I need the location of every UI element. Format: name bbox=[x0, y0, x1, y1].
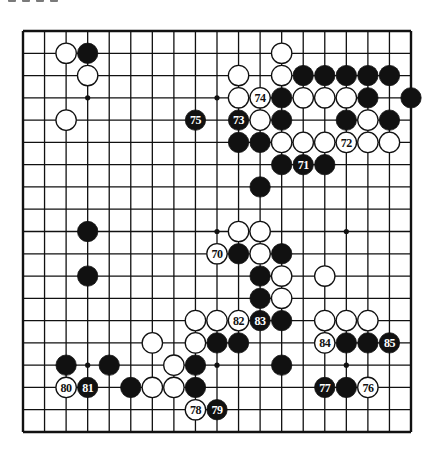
white-stone-move-80[interactable]: 80 bbox=[56, 377, 76, 397]
white-stone[interactable] bbox=[164, 377, 184, 397]
white-stone[interactable] bbox=[271, 65, 291, 85]
white-stone[interactable] bbox=[293, 132, 313, 152]
white-stone[interactable] bbox=[315, 132, 335, 152]
move-number: 85 bbox=[384, 336, 396, 350]
white-stone[interactable] bbox=[358, 110, 378, 130]
white-stone[interactable] bbox=[336, 88, 356, 108]
white-stone[interactable] bbox=[228, 65, 248, 85]
black-stone[interactable] bbox=[185, 355, 205, 375]
black-stone[interactable] bbox=[77, 43, 97, 63]
white-stone[interactable] bbox=[271, 266, 291, 286]
white-stone[interactable] bbox=[358, 132, 378, 152]
black-stone[interactable] bbox=[336, 333, 356, 353]
black-stone-move-85[interactable]: 85 bbox=[379, 333, 399, 353]
black-stone-move-81[interactable]: 81 bbox=[77, 377, 97, 397]
move-number: 71 bbox=[298, 158, 310, 172]
white-stone[interactable] bbox=[185, 310, 205, 330]
black-stone-move-75[interactable]: 75 bbox=[185, 110, 205, 130]
black-stone[interactable] bbox=[401, 88, 421, 108]
black-stone[interactable] bbox=[358, 65, 378, 85]
move-number: 83 bbox=[255, 314, 267, 328]
white-stone[interactable] bbox=[142, 333, 162, 353]
black-stone[interactable] bbox=[336, 377, 356, 397]
black-stone[interactable] bbox=[379, 65, 399, 85]
black-stone[interactable] bbox=[228, 132, 248, 152]
black-stone[interactable] bbox=[207, 333, 227, 353]
black-stone[interactable] bbox=[250, 266, 270, 286]
move-number: 76 bbox=[362, 381, 374, 395]
star-point bbox=[214, 363, 219, 368]
white-stone[interactable] bbox=[250, 244, 270, 264]
white-stone-move-72[interactable]: 72 bbox=[336, 132, 356, 152]
white-stone-move-82[interactable]: 82 bbox=[228, 310, 248, 330]
black-stone[interactable] bbox=[293, 65, 313, 85]
black-stone[interactable] bbox=[121, 377, 141, 397]
black-stone[interactable] bbox=[271, 154, 291, 174]
white-stone[interactable] bbox=[228, 88, 248, 108]
white-stone[interactable] bbox=[271, 43, 291, 63]
move-number: 73 bbox=[233, 113, 245, 127]
star-point bbox=[214, 229, 219, 234]
black-stone[interactable] bbox=[228, 244, 248, 264]
white-stone[interactable] bbox=[56, 43, 76, 63]
black-stone[interactable] bbox=[336, 110, 356, 130]
white-stone[interactable] bbox=[164, 355, 184, 375]
black-stone[interactable] bbox=[99, 355, 119, 375]
white-stone-move-74[interactable]: 74 bbox=[250, 88, 270, 108]
white-stone[interactable] bbox=[207, 310, 227, 330]
black-stone[interactable] bbox=[271, 88, 291, 108]
star-point bbox=[344, 363, 349, 368]
white-stone[interactable] bbox=[250, 110, 270, 130]
black-stone-move-77[interactable]: 77 bbox=[315, 377, 335, 397]
white-stone[interactable] bbox=[228, 221, 248, 241]
white-stone[interactable] bbox=[315, 88, 335, 108]
black-stone[interactable] bbox=[336, 65, 356, 85]
white-stone-move-78[interactable]: 78 bbox=[185, 400, 205, 420]
white-stone[interactable] bbox=[142, 377, 162, 397]
black-stone[interactable] bbox=[315, 65, 335, 85]
black-stone[interactable] bbox=[271, 244, 291, 264]
black-stone[interactable] bbox=[358, 333, 378, 353]
black-stone-move-71[interactable]: 71 bbox=[293, 154, 313, 174]
move-number: 78 bbox=[190, 403, 202, 417]
white-stone[interactable] bbox=[77, 65, 97, 85]
star-point bbox=[85, 95, 90, 100]
star-point bbox=[344, 229, 349, 234]
black-stone-move-73[interactable]: 73 bbox=[228, 110, 248, 130]
black-stone[interactable] bbox=[250, 177, 270, 197]
black-stone[interactable] bbox=[77, 266, 97, 286]
black-stone[interactable] bbox=[185, 377, 205, 397]
black-stone[interactable] bbox=[315, 154, 335, 174]
black-stone[interactable] bbox=[358, 88, 378, 108]
white-stone[interactable] bbox=[336, 310, 356, 330]
white-stone[interactable] bbox=[185, 333, 205, 353]
black-stone[interactable] bbox=[271, 110, 291, 130]
white-stone-move-70[interactable]: 70 bbox=[207, 244, 227, 264]
white-stone-move-84[interactable]: 84 bbox=[315, 333, 335, 353]
black-stone[interactable] bbox=[228, 333, 248, 353]
black-stone[interactable] bbox=[250, 288, 270, 308]
black-stone-move-79[interactable]: 79 bbox=[207, 400, 227, 420]
black-stone[interactable] bbox=[250, 132, 270, 152]
white-stone[interactable] bbox=[358, 310, 378, 330]
black-stone[interactable] bbox=[56, 355, 76, 375]
white-stone[interactable] bbox=[315, 310, 335, 330]
black-stone[interactable] bbox=[271, 310, 291, 330]
white-stone[interactable] bbox=[56, 110, 76, 130]
black-stone[interactable] bbox=[77, 221, 97, 241]
go-board[interactable]: 71737577798183857072747678808284 bbox=[0, 0, 443, 463]
white-stone[interactable] bbox=[379, 132, 399, 152]
go-board-canvas[interactable]: 71737577798183857072747678808284 bbox=[0, 0, 443, 463]
white-stone[interactable] bbox=[271, 288, 291, 308]
white-stone-move-76[interactable]: 76 bbox=[358, 377, 378, 397]
move-number: 81 bbox=[82, 381, 94, 395]
black-stone[interactable] bbox=[379, 110, 399, 130]
black-stone[interactable] bbox=[271, 355, 291, 375]
white-stone[interactable] bbox=[250, 221, 270, 241]
black-stone-move-83[interactable]: 83 bbox=[250, 310, 270, 330]
star-point bbox=[214, 95, 219, 100]
white-stone[interactable] bbox=[315, 266, 335, 286]
white-stone[interactable] bbox=[293, 88, 313, 108]
white-stone[interactable] bbox=[271, 132, 291, 152]
move-number: 72 bbox=[341, 136, 353, 150]
